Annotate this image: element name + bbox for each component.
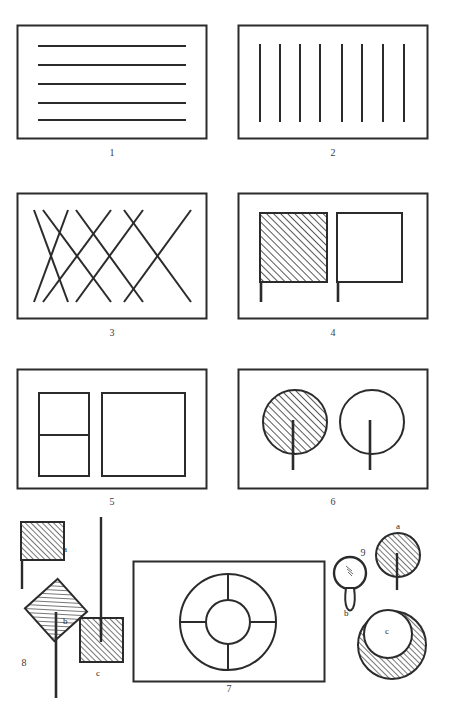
panel-8-item-b-label: b <box>63 616 68 626</box>
panel-8-caption: 8 <box>14 657 34 668</box>
figure-sheet: 1 2 <box>0 0 449 703</box>
panel-2-drawing <box>237 24 429 140</box>
panel-9-item-a-label: a <box>396 521 400 531</box>
panel-9-item-b-label: b <box>344 608 349 618</box>
hatched-circle-with-stem <box>263 390 327 470</box>
panel-8-item-c <box>80 517 123 662</box>
panel-9-drawing <box>330 518 448 690</box>
outline-square-with-stem <box>337 213 402 302</box>
panel-4 <box>237 192 429 320</box>
panel-1-drawing <box>16 24 208 140</box>
panel-5-caption: 5 <box>72 496 152 507</box>
panel-8-drawing <box>8 512 133 700</box>
panel-1 <box>16 24 208 140</box>
panel-9-item-c <box>358 610 426 679</box>
panel-3 <box>16 192 208 320</box>
panel-1-caption: 1 <box>72 147 152 158</box>
panel-4-caption: 4 <box>293 327 373 338</box>
panel-2 <box>237 24 429 140</box>
panel-2-caption: 2 <box>293 147 373 158</box>
panel-5-drawing <box>16 368 208 490</box>
panel-3-caption: 3 <box>72 327 152 338</box>
panel-7 <box>132 560 326 685</box>
panel-9-caption: 9 <box>353 547 373 558</box>
panel-9 <box>330 518 448 690</box>
panel-8 <box>8 512 133 700</box>
diagonal-down-right-group <box>34 210 191 302</box>
panel-5 <box>16 368 208 490</box>
vertical-line-group <box>260 44 404 122</box>
panel-7-caption: 7 <box>189 683 269 694</box>
outline-circle-with-stem <box>340 390 404 470</box>
diagonal-up-right-group <box>34 210 191 302</box>
panel-9-item-a <box>376 533 420 590</box>
panel-6-drawing <box>237 368 429 490</box>
panel-4-drawing <box>237 192 429 320</box>
hatched-square-with-stem <box>260 213 327 302</box>
panel-6 <box>237 368 429 490</box>
panel-8-item-a-label: a <box>63 544 67 554</box>
panel-9-item-b <box>334 557 366 611</box>
panel-8-item-c-label: c <box>96 668 100 678</box>
split-rectangle <box>39 393 89 476</box>
panel-7-drawing <box>132 560 326 685</box>
panel-3-drawing <box>16 192 208 320</box>
concentric-target <box>180 574 276 670</box>
horizontal-line-group <box>38 46 186 120</box>
plain-square <box>102 393 185 476</box>
panel-8-item-b <box>25 579 87 698</box>
panel-6-caption: 6 <box>293 496 373 507</box>
panel-9-item-c-label: c <box>385 626 389 636</box>
